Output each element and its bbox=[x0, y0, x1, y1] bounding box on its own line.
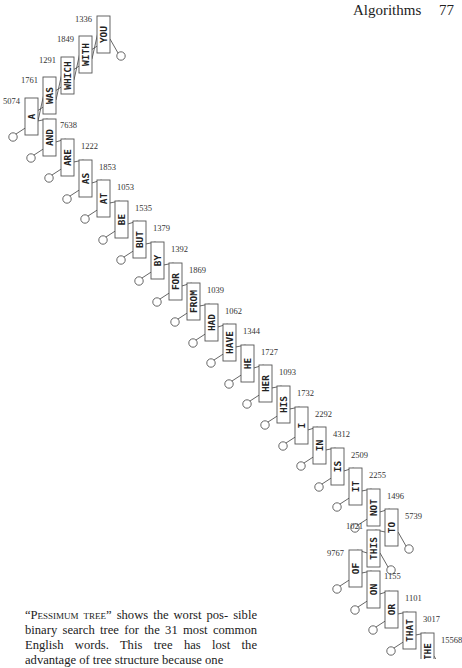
edge bbox=[380, 553, 388, 567]
frequency-label: 2255 bbox=[369, 470, 386, 480]
tree-node: IT bbox=[349, 468, 362, 505]
tree-node: NOT bbox=[367, 489, 380, 526]
empty-leaf-icon bbox=[117, 256, 125, 264]
frequency-label: 3017 bbox=[423, 614, 440, 624]
frequency-label: 1344 bbox=[243, 326, 261, 336]
empty-leaf-icon bbox=[45, 174, 53, 182]
edge bbox=[434, 656, 442, 659]
empty-leaf-icon bbox=[99, 236, 107, 244]
node-word: OF bbox=[350, 563, 361, 575]
node-word: BE bbox=[116, 214, 127, 226]
frequency-label: 15568 bbox=[441, 635, 462, 645]
tree-node: OR bbox=[385, 591, 398, 628]
node-word: HIS bbox=[278, 396, 289, 413]
empty-leaf-icon bbox=[333, 585, 341, 593]
frequency-label: 1053 bbox=[117, 182, 134, 192]
empty-leaf-icon bbox=[9, 133, 17, 141]
node-word: BUT bbox=[134, 231, 145, 248]
node-word: IS bbox=[332, 461, 343, 473]
frequency-label: 1291 bbox=[39, 55, 56, 65]
tree-node: FROM bbox=[187, 283, 200, 320]
node-word: THIS bbox=[368, 537, 379, 560]
frequency-label: 7638 bbox=[60, 120, 77, 130]
node-word: HER bbox=[260, 375, 271, 392]
empty-leaf-icon bbox=[63, 195, 71, 203]
caption-figure-name: Pessimum tree bbox=[31, 608, 107, 622]
frequency-label: 1336 bbox=[75, 14, 92, 24]
frequency-label: 1535 bbox=[135, 203, 152, 213]
tree-node: BE bbox=[115, 201, 128, 238]
frequency-label: 1021 bbox=[346, 521, 363, 531]
tree-node: ARE bbox=[61, 139, 74, 176]
tree-node: OF bbox=[349, 550, 362, 587]
empty-leaf-icon bbox=[153, 298, 161, 306]
node-word: AT bbox=[98, 193, 109, 205]
node-word: YOU bbox=[98, 26, 109, 43]
node-word: WAS bbox=[44, 87, 55, 104]
tree-node: IS bbox=[331, 448, 344, 485]
frequency-label: 1101 bbox=[405, 593, 422, 603]
tree-node: AND bbox=[43, 119, 56, 156]
tree-node: BUT bbox=[133, 221, 146, 258]
frequency-label: 1155 bbox=[384, 571, 401, 581]
node-word: AS bbox=[80, 173, 91, 185]
tree-node: THAT bbox=[403, 612, 416, 649]
tree-node: THE bbox=[421, 633, 434, 659]
node-word: I bbox=[296, 423, 307, 429]
empty-leaf-icon bbox=[171, 318, 179, 326]
empty-leaf-icon bbox=[387, 647, 395, 655]
tree-node: AS bbox=[79, 160, 92, 197]
node-word: A bbox=[26, 113, 37, 119]
empty-leaf-icon bbox=[81, 215, 89, 223]
tree-node: FOR bbox=[169, 263, 182, 300]
tree-node: WITH bbox=[79, 36, 92, 73]
tree-node: BY bbox=[151, 242, 164, 279]
empty-leaf-icon bbox=[135, 277, 143, 285]
empty-leaf-icon bbox=[369, 626, 377, 634]
tree-node: HIS bbox=[277, 386, 290, 423]
empty-leaf-icon bbox=[279, 442, 287, 450]
node-word: HE bbox=[242, 358, 253, 370]
frequency-label: 1727 bbox=[261, 347, 278, 357]
node-word: THE bbox=[422, 643, 433, 659]
tree-node: THIS bbox=[367, 530, 380, 567]
frequency-label: 1392 bbox=[171, 244, 188, 254]
tree-node: WAS bbox=[43, 77, 56, 114]
frequency-label: 2509 bbox=[351, 450, 368, 460]
frequency-label: 1222 bbox=[81, 141, 98, 151]
caption-line-1: shows the worst pos- bbox=[117, 608, 229, 622]
frequency-label: 1379 bbox=[153, 223, 170, 233]
node-word: ARE bbox=[62, 149, 73, 166]
empty-leaf-icon bbox=[261, 421, 269, 429]
tree-node: I bbox=[295, 407, 308, 444]
empty-leaf-icon bbox=[297, 462, 305, 470]
node-word: WHICH bbox=[62, 61, 73, 90]
node-word: WITH bbox=[80, 43, 91, 66]
edge bbox=[398, 532, 406, 546]
figure-caption: “Pessimum tree” shows the worst pos- sib… bbox=[25, 608, 257, 668]
tree-node: IN bbox=[313, 427, 326, 464]
node-word: HAD bbox=[206, 314, 217, 331]
empty-leaf-icon bbox=[315, 483, 323, 491]
node-word: FOR bbox=[170, 273, 181, 290]
node-word: FROM bbox=[188, 290, 199, 313]
frequency-label: 2292 bbox=[315, 409, 332, 419]
tree-node: WHICH bbox=[61, 57, 74, 94]
tree-node: ON bbox=[367, 571, 380, 608]
frequency-label: 1849 bbox=[57, 34, 74, 44]
empty-leaf-icon bbox=[333, 503, 341, 511]
node-word: BY bbox=[152, 255, 163, 267]
empty-leaf-icon bbox=[117, 52, 125, 60]
frequency-label: 1496 bbox=[387, 491, 404, 501]
edge bbox=[110, 39, 118, 53]
empty-leaf-icon bbox=[243, 400, 251, 408]
frequency-label: 5739 bbox=[405, 511, 422, 521]
node-word: THAT bbox=[404, 619, 415, 642]
empty-leaf-icon bbox=[207, 359, 215, 367]
node-word: HAVE bbox=[224, 331, 235, 354]
node-word: TO bbox=[386, 522, 397, 534]
empty-leaf-icon bbox=[189, 339, 197, 347]
tree-node: HER bbox=[259, 365, 272, 402]
frequency-label: 1039 bbox=[207, 285, 224, 295]
